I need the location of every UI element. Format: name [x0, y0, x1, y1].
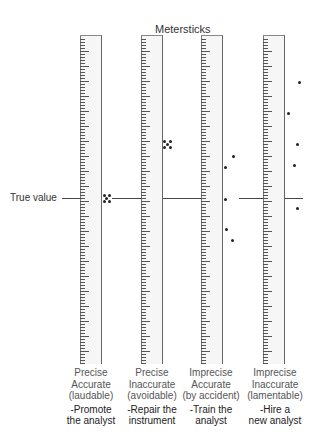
measurement-dot [287, 112, 290, 115]
diagram-title: Metersticks [155, 23, 211, 35]
caption-accuracy: Inaccurate [129, 379, 176, 390]
measurement-dot [169, 146, 172, 149]
measurement-dot [108, 200, 111, 203]
true-value-line-segment-3 [239, 198, 263, 199]
caption-precision: Imprecise [253, 367, 296, 378]
ruler-ticks [263, 36, 284, 364]
caption-action-1: -Repair the [127, 404, 176, 415]
caption-verdict: (avoidable) [127, 390, 176, 401]
true-value-line-segment-1 [112, 198, 141, 199]
measurement-dot [298, 81, 301, 84]
true-value-line-segment-2 [163, 198, 201, 199]
caption-precision: Precise [135, 367, 168, 378]
caption-verdict: (by accident) [182, 390, 239, 401]
measurement-dot [103, 200, 106, 203]
caption-action-1: -Hire a [260, 404, 290, 415]
measurement-dot [231, 239, 234, 242]
measurement-dot [169, 140, 172, 143]
meterstick-4 [263, 35, 285, 364]
measurement-dot [224, 198, 227, 201]
measurement-dot [224, 166, 227, 169]
caption-action-2: analyst [195, 415, 227, 426]
caption-accuracy: Accurate [71, 379, 110, 390]
measurement-dot [225, 228, 228, 231]
meterstick-3 [201, 35, 223, 364]
true-value-line-segment-4 [285, 198, 303, 199]
ruler-ticks [141, 36, 162, 364]
caption-verdict: (laudable) [69, 390, 113, 401]
meterstick-1 [80, 35, 102, 364]
caption-verdict: (lamentable) [247, 390, 303, 401]
caption-action-1: -Promote [70, 404, 111, 415]
caption-precision: Imprecise [189, 367, 232, 378]
measurement-dot [296, 143, 299, 146]
measurement-dot [108, 194, 111, 197]
true-value-line-segment-0 [62, 198, 80, 199]
true-value-label: True value [10, 192, 57, 203]
measurement-dot [163, 146, 166, 149]
caption-accuracy: Accurate [191, 379, 230, 390]
caption-action-2: instrument [129, 415, 176, 426]
measurement-dot [293, 164, 296, 167]
caption-accuracy: Inaccurate [252, 379, 299, 390]
measurement-dot [296, 207, 299, 210]
ruler-ticks [201, 36, 222, 364]
caption-imprecise-inaccurate: Imprecise Inaccurate (lamentable) -Hire … [239, 367, 311, 427]
caption-action-1: -Train the [190, 404, 232, 415]
caption-imprecise-accurate: Imprecise Accurate (by accident) -Train … [175, 367, 247, 427]
meterstick-2 [141, 35, 163, 364]
caption-precision: Precise [74, 367, 107, 378]
caption-action-2: new analyst [249, 415, 302, 426]
caption-action-2: the analyst [67, 415, 115, 426]
measurement-dot [232, 155, 235, 158]
ruler-ticks [80, 36, 101, 364]
